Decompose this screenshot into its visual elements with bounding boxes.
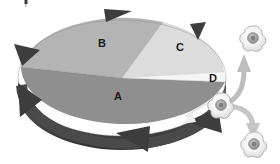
slice-label-b: B <box>98 37 106 49</box>
diagram-canvas: A B C D <box>0 0 280 164</box>
slice-label-a: A <box>114 90 122 102</box>
slice-label-c: C <box>176 41 184 53</box>
cell-cycle-figure: A B C D <box>0 0 280 164</box>
slice-label-d: D <box>209 72 217 84</box>
